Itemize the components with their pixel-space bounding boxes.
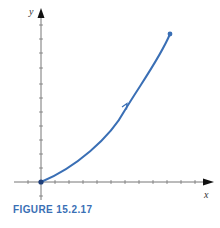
y-axis <box>39 16 43 200</box>
plot-area <box>0 0 220 228</box>
curve <box>41 34 170 182</box>
direction-arrow-icon <box>122 104 127 110</box>
end-point <box>168 32 173 37</box>
x-axis-label: x <box>204 189 208 200</box>
y-axis-arrow-icon <box>38 8 45 18</box>
start-point <box>38 179 43 184</box>
y-axis-label: y <box>29 6 33 17</box>
figure: y x FIGURE 15.2.17 <box>0 0 220 228</box>
x-axis-arrow-icon <box>203 179 214 186</box>
figure-caption: FIGURE 15.2.17 <box>13 204 93 215</box>
